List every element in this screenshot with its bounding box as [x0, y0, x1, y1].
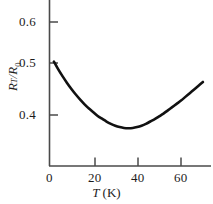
y-axis-slash: / — [5, 75, 20, 79]
x-tick-label-60: 60 — [174, 170, 187, 186]
x-tick-label-40: 40 — [131, 170, 144, 186]
x-axis-unit: (K) — [103, 185, 121, 200]
y-axis-numerator-subscript: T — [9, 78, 19, 83]
y-axis-numerator: R — [5, 83, 20, 91]
y-axis-denominator: R — [5, 67, 20, 75]
x-axis-title: T (K) — [0, 185, 213, 201]
y-axis-denominator-subscript: 0 — [13, 63, 23, 67]
x-axis-symbol: T — [92, 185, 99, 200]
data-series-line — [54, 62, 203, 129]
chart-figure: 0.6 0.5 0.4 0 20 40 60 RT/R0 T (K) — [0, 0, 213, 204]
x-tick-label-0: 0 — [46, 170, 53, 186]
y-tick-label-0.6: 0.6 — [19, 14, 36, 30]
y-tick-label-0.4: 0.4 — [19, 107, 36, 123]
x-tick-label-20: 20 — [88, 170, 101, 186]
y-axis-title: RT/R0 — [5, 47, 23, 107]
